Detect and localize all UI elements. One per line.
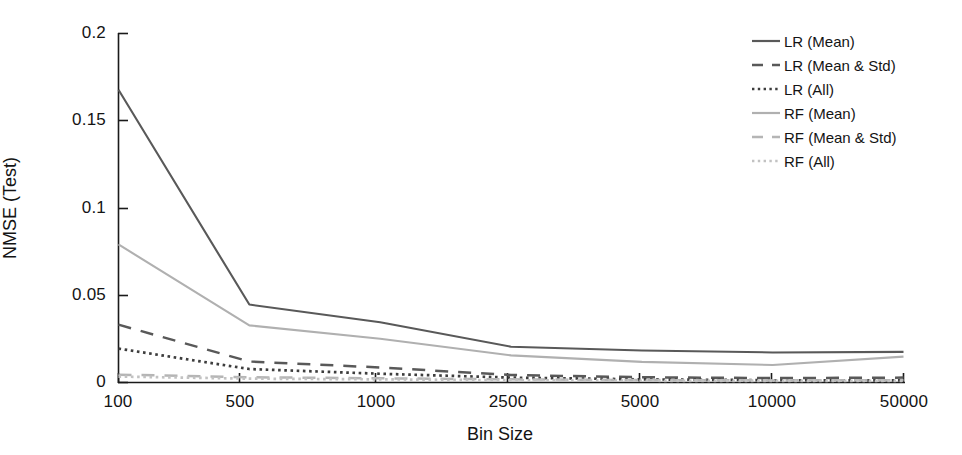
y-tick-0.05: 0.05: [44, 285, 106, 305]
legend-label: RF (Mean): [784, 105, 856, 122]
legend-label: RF (All): [784, 153, 835, 170]
x-axis-label: Bin Size: [467, 424, 533, 445]
legend-item-rf-mean-std: RF (Mean & Std): [752, 126, 952, 148]
y-tick-0.2: 0.2: [50, 23, 106, 43]
legend-label: RF (Mean & Std): [784, 129, 897, 146]
legend-item-rf-mean: RF (Mean): [752, 102, 952, 124]
legend-item-lr-mean-std: LR (Mean & Std): [752, 54, 952, 76]
y-tick-0.1: 0.1: [50, 198, 106, 218]
x-tick-1000: 1000: [357, 392, 396, 412]
legend-label: LR (All): [784, 81, 834, 98]
legend-item-rf-all: RF (All): [752, 150, 952, 172]
legend-item-lr-all: LR (All): [752, 78, 952, 100]
x-tick-50000: 50000: [880, 392, 928, 412]
legend-swatch-solid-light-icon: [752, 107, 780, 119]
y-axis-ticks: [118, 34, 128, 383]
y-axis-label: NMSE (Test): [0, 157, 21, 259]
x-tick-10000: 10000: [748, 392, 796, 412]
x-tick-5000: 5000: [621, 392, 660, 412]
legend-item-lr-mean: LR (Mean): [752, 30, 952, 52]
y-tick-0.15: 0.15: [44, 110, 106, 130]
legend-swatch-dashed-dark-icon: [752, 59, 780, 71]
chart-figure: 0.2 0.15 0.1 0.05 0 100 500 1000 2500 50…: [0, 0, 962, 455]
chart-legend: LR (Mean) LR (Mean & Std) LR (All) RF (M…: [752, 30, 952, 174]
legend-swatch-dotted-light-icon: [752, 155, 780, 167]
legend-label: LR (Mean): [784, 33, 855, 50]
legend-swatch-dotted-dark-icon: [752, 83, 780, 95]
x-tick-2500: 2500: [489, 392, 528, 412]
y-tick-0: 0: [70, 372, 106, 392]
legend-swatch-solid-dark-icon: [752, 35, 780, 47]
legend-swatch-dashed-light-icon: [752, 131, 780, 143]
legend-label: LR (Mean & Std): [784, 57, 896, 74]
x-tick-100: 100: [104, 392, 133, 412]
x-tick-500: 500: [226, 392, 255, 412]
